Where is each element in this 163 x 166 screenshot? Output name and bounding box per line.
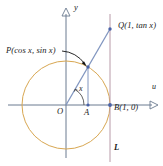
label-point-p: P(cos x, sin x) [6, 46, 56, 55]
trig-unit-circle-figure: P(cos x, sin x) Q(1, tan x) B(1, 0) O A … [0, 0, 163, 166]
y-axis [62, 8, 70, 158]
label-angle-x: x [79, 85, 83, 93]
label-origin: O [57, 107, 63, 116]
point-marker-p [86, 65, 89, 68]
label-point-q: Q(1, tan x) [118, 21, 156, 30]
point-marker-b [108, 103, 112, 107]
label-line-l: L [114, 143, 119, 152]
label-u-axis: u [152, 83, 156, 91]
label-point-a: A [84, 108, 89, 117]
label-point-b: B(1, 0) [114, 103, 138, 112]
label-y-axis: y [74, 3, 78, 12]
point-marker-q [108, 27, 111, 30]
